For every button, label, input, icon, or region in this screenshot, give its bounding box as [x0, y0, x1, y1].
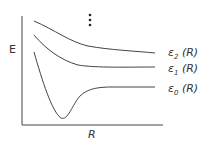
curve-epsilon-2 — [34, 21, 155, 53]
subscript: 1 — [174, 69, 178, 77]
ellipsis-dot — [89, 14, 92, 17]
subscript: 2 — [174, 53, 178, 61]
x-axis-label: R — [88, 128, 96, 141]
arg: (R) — [182, 82, 198, 95]
label-epsilon-0: ε0 (R) — [168, 82, 198, 97]
arg: (R) — [182, 62, 198, 75]
label-epsilon-2: ε2 (R) — [168, 46, 198, 61]
label-epsilon-1: ε1 (R) — [168, 62, 198, 77]
ellipsis-dot — [89, 19, 92, 22]
arg: (R) — [182, 46, 198, 59]
curve-epsilon-0 — [34, 52, 155, 118]
subscript: 0 — [174, 89, 178, 97]
ellipsis-dot — [89, 24, 92, 27]
y-axis-label: E — [9, 43, 16, 56]
